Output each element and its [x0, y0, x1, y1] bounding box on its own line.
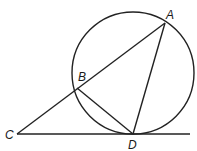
label-b: B	[78, 70, 86, 84]
geometry-diagram: A B C D	[0, 0, 197, 151]
chord-ad	[133, 23, 165, 134]
label-d: D	[128, 138, 137, 151]
circle	[72, 12, 194, 134]
label-a: A	[165, 8, 174, 22]
label-c: C	[5, 128, 14, 142]
